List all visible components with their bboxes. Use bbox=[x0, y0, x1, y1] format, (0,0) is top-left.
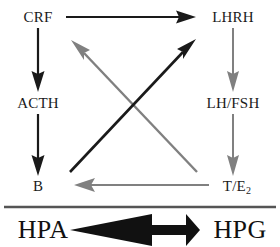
node-t-e2-subscript: 2 bbox=[246, 185, 251, 196]
node-acth: ACTH bbox=[17, 95, 59, 112]
node-t-e2-label: T/E bbox=[223, 178, 246, 194]
node-b-label: B bbox=[33, 178, 43, 194]
arrow-layer bbox=[0, 0, 280, 247]
system-label-hpg-text: HPG bbox=[214, 215, 267, 244]
node-lh-fsh-label: LH/FSH bbox=[207, 95, 260, 111]
system-label-hpg: HPG bbox=[214, 215, 267, 245]
edge-te2-to-b bbox=[74, 178, 209, 192]
edge-crf-to-lhrh bbox=[66, 11, 196, 24]
edge-lhrh-to-lhfsh bbox=[227, 28, 239, 92]
edge-acth-to-b bbox=[32, 114, 45, 176]
hpa-hpg-bidirectional-arrow bbox=[70, 214, 200, 246]
system-label-hpa-text: HPA bbox=[18, 215, 69, 244]
node-acth-label: ACTH bbox=[17, 95, 59, 111]
node-crf: CRF bbox=[24, 9, 53, 26]
system-label-hpa: HPA bbox=[18, 215, 69, 245]
node-b: B bbox=[33, 178, 43, 195]
node-lh-fsh: LH/FSH bbox=[207, 95, 260, 112]
node-lhrh: LHRH bbox=[212, 9, 254, 26]
edge-lhfsh-to-te2 bbox=[227, 114, 239, 176]
node-crf-label: CRF bbox=[24, 9, 53, 25]
pathway-diagram: CRF LHRH ACTH LH/FSH B T/E2 HPA HPG bbox=[0, 0, 280, 247]
node-t-e2: T/E2 bbox=[223, 178, 251, 195]
node-lhrh-label: LHRH bbox=[212, 9, 254, 25]
edge-crf-to-acth bbox=[32, 28, 45, 92]
